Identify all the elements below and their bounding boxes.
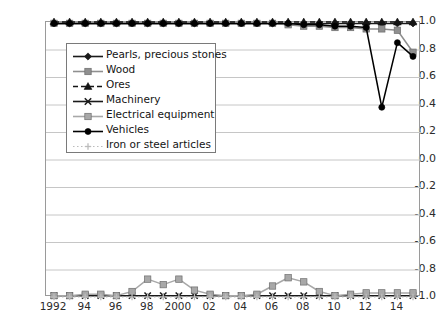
legend-marker-plus-icon	[71, 138, 105, 151]
legend-item-label: Pearls, precious stones	[105, 48, 227, 61]
legend-item-label: Iron or steel articles	[105, 138, 211, 151]
legend-item-label: Machinery	[105, 93, 160, 106]
legend-item: Vehicles	[67, 122, 215, 137]
legend-item-label: Electrical equipment	[105, 108, 214, 121]
line-chart: 1.00.80.60.40.20.0-0.2-0.4-0.6-0.8-1.0 1…	[0, 0, 436, 321]
legend-item-label: Wood	[105, 63, 135, 76]
chart-legend: Pearls, precious stonesWoodOresMachinery…	[66, 43, 216, 153]
legend-marker-triangle-icon	[71, 78, 105, 91]
legend-marker-x-icon	[71, 93, 105, 106]
legend-item: Ores	[67, 77, 215, 92]
legend-marker-diamond-icon	[71, 48, 105, 61]
legend-marker-circle-icon	[71, 123, 105, 136]
x-axis-tick-label: 14	[376, 301, 416, 312]
legend-item: Pearls, precious stones	[67, 47, 215, 62]
legend-item: Electrical equipment	[67, 107, 215, 122]
legend-item: Iron or steel articles	[67, 137, 215, 152]
legend-marker-square-icon	[71, 63, 105, 76]
legend-item-label: Ores	[105, 78, 130, 91]
legend-item: Wood	[67, 62, 215, 77]
legend-item-label: Vehicles	[105, 123, 149, 136]
legend-item: Machinery	[67, 92, 215, 107]
legend-marker-square-icon	[71, 108, 105, 121]
